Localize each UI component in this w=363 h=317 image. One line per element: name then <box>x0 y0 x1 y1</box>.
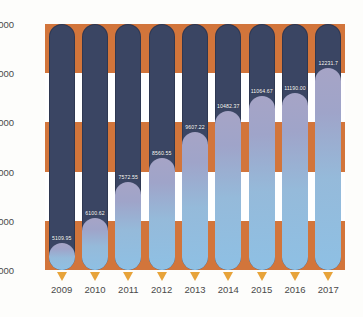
down-triangle-icon <box>57 272 67 281</box>
bar-2015[interactable]: 11064.67 <box>249 24 275 270</box>
bar-2009[interactable]: 5109.95 <box>49 24 75 270</box>
bar-fill <box>315 68 341 270</box>
bar-value-label: 6100.62 <box>85 210 104 216</box>
bar-value-label: 5109.95 <box>52 235 71 241</box>
bar-fill <box>49 243 75 270</box>
bar-value-label: 8560.55 <box>152 150 171 156</box>
down-triangle-icon <box>190 272 200 281</box>
down-triangle-icon <box>90 272 100 281</box>
y-tick-label: 8000 <box>0 166 14 177</box>
down-triangle-icon <box>157 272 167 281</box>
bar-value-label: 9607.22 <box>185 124 204 130</box>
bar-2010[interactable]: 6100.62 <box>82 24 108 270</box>
bar-fill <box>82 218 108 270</box>
bar-2013[interactable]: 9607.22 <box>182 24 208 270</box>
bar-series: 5109.956100.627572.558560.559607.2210482… <box>45 24 345 270</box>
bar-value-label: 11064.67 <box>251 88 273 94</box>
bar-fill <box>282 93 308 270</box>
bar-2014[interactable]: 10482.37 <box>215 24 241 270</box>
x-tick-2017: 2017 <box>308 272 348 295</box>
bar-2012[interactable]: 8560.55 <box>149 24 175 270</box>
y-tick-label: 4000 <box>0 265 14 276</box>
y-tick-label: 14000 <box>0 19 14 30</box>
plot-area: 5109.956100.627572.558560.559607.2210482… <box>45 24 345 270</box>
bar-track <box>49 24 75 270</box>
bar-value-label: 7572.55 <box>119 174 138 180</box>
y-tick-label: 12000 <box>0 68 14 79</box>
y-tick-label: 6000 <box>0 215 14 226</box>
down-triangle-icon <box>290 272 300 281</box>
bar-2017[interactable]: 12231.7 <box>315 24 341 270</box>
bar-fill <box>182 132 208 270</box>
down-triangle-icon <box>257 272 267 281</box>
down-triangle-icon <box>123 272 133 281</box>
bar-fill <box>215 111 241 270</box>
bar-fill <box>115 182 141 270</box>
bar-2016[interactable]: 11190.00 <box>282 24 308 270</box>
bar-fill <box>249 96 275 270</box>
bar-fill <box>149 158 175 270</box>
bar-value-label: 12231.7 <box>319 60 338 66</box>
bar-2011[interactable]: 7572.55 <box>115 24 141 270</box>
x-tick-label: 2017 <box>308 284 348 295</box>
chart-container: 5109.956100.627572.558560.559607.2210482… <box>0 0 363 317</box>
y-tick-label: 10000 <box>0 117 14 128</box>
down-triangle-icon <box>323 272 333 281</box>
bar-value-label: 11190.00 <box>284 85 306 91</box>
bar-value-label: 10482.37 <box>217 103 239 109</box>
down-triangle-icon <box>223 272 233 281</box>
